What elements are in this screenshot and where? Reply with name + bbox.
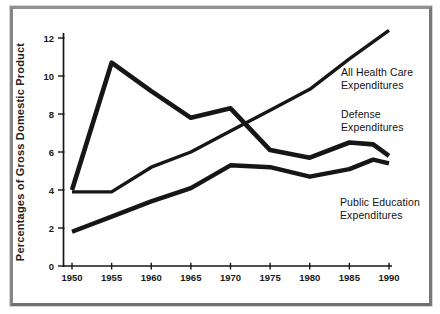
x-tick-label: 1955 — [101, 272, 123, 283]
figure-page: 0246810121950195519601965197019751980198… — [0, 0, 440, 314]
annotation-education-line1: Public Education — [340, 196, 420, 209]
annotation-health-line1: All Health Care — [341, 66, 413, 79]
annotation-defense-label: Defense Expenditures — [341, 108, 404, 134]
annotation-education-label: Public Education Expenditures — [340, 196, 420, 222]
x-tick-label: 1990 — [378, 272, 399, 283]
x-tick-label: 1985 — [339, 272, 361, 283]
x-tick-label: 1980 — [299, 272, 320, 283]
annotation-defense-line2: Expenditures — [341, 121, 404, 134]
x-tick-label: 1960 — [141, 272, 162, 283]
y-tick-label: 4 — [49, 185, 55, 196]
y-tick-label: 2 — [49, 223, 54, 234]
annotation-health-line2: Expenditures — [341, 79, 413, 92]
y-axis-title: Percentages of Gross Domestic Product — [14, 43, 26, 261]
annotation-health-label: All Health Care Expenditures — [341, 66, 413, 92]
x-tick-label: 1950 — [61, 272, 82, 283]
y-tick-label: 12 — [43, 33, 54, 44]
x-tick-label: 1970 — [220, 272, 241, 283]
x-tick-label: 1965 — [180, 272, 202, 283]
y-tick-label: 6 — [49, 147, 54, 158]
annotation-education-line2: Expenditures — [340, 209, 420, 222]
line-chart: 0246810121950195519601965197019751980198… — [0, 0, 440, 314]
y-tick-label: 10 — [43, 71, 54, 82]
annotation-defense-line1: Defense — [341, 108, 404, 121]
x-tick-label: 1975 — [260, 272, 282, 283]
y-tick-label: 8 — [49, 109, 54, 120]
y-tick-label: 0 — [49, 261, 54, 272]
